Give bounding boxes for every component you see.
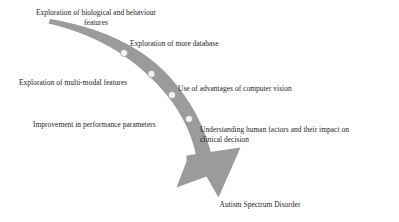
milestone-marker-3 [168, 91, 175, 98]
step-label-exploration-biological-behaviour: Exploration of biological and behaviour … [13, 8, 179, 27]
step-label-understanding-human-factors: Understanding human factors and their im… [200, 125, 396, 144]
diagram-canvas: Exploration of biological and behaviour … [0, 0, 399, 222]
curved-arrow-graphic [0, 0, 399, 222]
step-label-exploration-multi-modal-features: Exploration of multi-modal features [19, 78, 167, 88]
step-label-use-of-computer-vision: Use of advantages of computer vision [178, 84, 326, 94]
outcome-label-autism-spectrum-disorder: Autism Spectrum Disorder [185, 200, 335, 210]
milestone-marker-2 [148, 70, 155, 77]
step-label-exploration-more-database: Exploration of more database [130, 39, 256, 49]
milestone-marker-1 [120, 49, 127, 56]
arrow-head-shape [177, 148, 241, 198]
step-label-improvement-performance-parameters: Improvement in performance parameters [33, 120, 193, 130]
